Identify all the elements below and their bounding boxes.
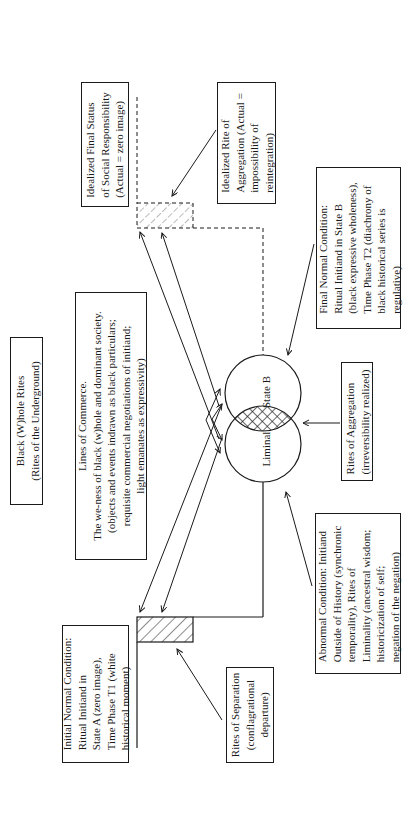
initial-normal-condition-box: Initial Normal Condition: Ritual Initian…: [62, 625, 129, 763]
text-line: Lines of Commerce.: [75, 311, 90, 541]
abnormal-condition-box: Abnormal Condition: Initiand Outside of …: [315, 513, 401, 674]
text-line: historicization of self;: [373, 525, 388, 662]
text-line: Ritual Initiand in: [74, 638, 89, 750]
text-line: (Actual = zero image): [112, 92, 127, 198]
text-line: Final Normal Condition:: [315, 182, 330, 314]
text-line: Ritual Initiand in State B: [330, 182, 345, 314]
rites-of-separation-box: Rites of Separation (conflagrational dep…: [226, 667, 274, 763]
text-line: regulative): [388, 182, 403, 314]
lines-of-commerce-box: Lines of Commerce. The we-ness of black …: [75, 292, 147, 560]
text-line: reintegration): [261, 93, 276, 193]
text-line: The we-ness of black (w)hole and dominan…: [89, 311, 104, 541]
text-line: temporality), Rites of: [344, 525, 359, 662]
subtitle-line: (Rites of the Underground): [27, 361, 42, 480]
title-line: Black (W)hole Rites: [12, 361, 27, 480]
text-line: of Social Responsibility: [98, 92, 113, 198]
final-normal-condition-box: Final Normal Condition: Ritual Initiand …: [316, 167, 401, 329]
rites-of-aggregation-box: Rites of Aggregation (irreversibility re…: [341, 362, 373, 481]
text-line: Idealized Rite of: [218, 93, 233, 193]
text-line: Initial Normal Condition:: [59, 638, 74, 750]
text-line: Idealized Final Status: [83, 92, 98, 198]
text-line: Rites of Aggregation: [343, 369, 358, 474]
text-line: departure): [257, 673, 272, 757]
text-line: impossibility of: [247, 93, 262, 193]
text-line: Abnormal Condition: Initiand: [315, 525, 330, 662]
text-line: State A (zero image),: [88, 638, 103, 750]
text-line: (irreversibility realized): [357, 369, 372, 474]
idealized-rite-of-aggregation-box: Idealized Rite of Aggregation (Actual = …: [217, 82, 276, 204]
text-line: (conflagrational: [243, 673, 258, 757]
text-line: Rites of Separation: [228, 673, 243, 757]
text-line: historical moment): [117, 638, 132, 750]
text-line: Time Phase T1 (white: [103, 638, 118, 750]
lines-of-commerce-arrows: [140, 232, 222, 612]
text-line: Aggregation (Actual =: [232, 93, 247, 193]
text-line: light emanates as expressivity): [133, 311, 148, 541]
text-line: black historical series is: [373, 182, 388, 314]
text-line: Time Phase T2 (diachrony of: [359, 182, 374, 314]
idealized-final-status-box: Idealized Final Status of Social Respons…: [81, 82, 129, 207]
text-line: (objects and events indrawn as black par…: [104, 311, 119, 541]
text-line: negation of the negation): [387, 525, 402, 662]
state-b-label: State B: [260, 376, 272, 408]
text-line: Outside of History (synchronic: [329, 525, 344, 662]
title-box: Black (W)hole Rites (Rites of the Underg…: [10, 337, 43, 505]
text-line: Liminality (ancestral wisdom;: [358, 525, 373, 662]
text-line: (black expressive wholeness),: [344, 182, 359, 314]
text-line: requisite commercial negotiations of ini…: [118, 311, 133, 541]
liminal-label: Liminal: [260, 432, 272, 467]
